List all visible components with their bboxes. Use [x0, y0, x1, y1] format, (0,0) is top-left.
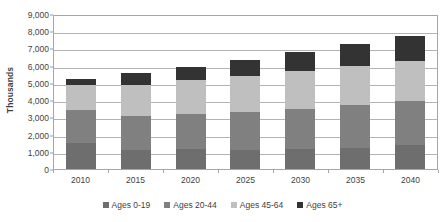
bar-segment-ages-65-2020[interactable]: [176, 67, 206, 80]
bar-segment-ages-20-44-2015[interactable]: [121, 116, 151, 150]
bar-column-2030[interactable]: [285, 16, 315, 169]
bar-segment-ages-20-44-2010[interactable]: [66, 110, 96, 143]
bar-stack: [66, 79, 96, 169]
bar-segment-ages-45-64-2010[interactable]: [66, 85, 96, 110]
bar-segment-ages-45-64-2035[interactable]: [340, 66, 370, 106]
x-axis-tick-label-2025: 2025: [231, 171, 261, 185]
bar-segment-ages-0-19-2015[interactable]: [121, 150, 151, 169]
bar-segment-ages-0-19-2030[interactable]: [285, 149, 315, 169]
x-axis-tick-label-2020: 2020: [176, 171, 206, 185]
y-axis-title: Thousands: [0, 0, 20, 180]
x-axis-tick-label-2030: 2030: [286, 171, 316, 185]
bar-segment-ages-20-44-2035[interactable]: [340, 105, 370, 147]
stacked-bar-chart: Thousands 9,0008,0007,0006,0005,0004,000…: [0, 0, 445, 222]
legend-swatch-ages-20-44: [164, 202, 170, 208]
y-axis-tick-label: 0: [44, 165, 49, 175]
bar-segment-ages-65-2040[interactable]: [395, 36, 425, 61]
bar-segment-ages-65-2025[interactable]: [230, 60, 260, 76]
legend-label: Ages 20-44: [173, 200, 216, 210]
bar-segment-ages-20-44-2030[interactable]: [285, 109, 315, 149]
bar-segment-ages-0-19-2040[interactable]: [395, 145, 425, 169]
x-axis-tick-labels: 2010201520202025203020352040: [53, 171, 438, 189]
bar-segment-ages-0-19-2035[interactable]: [340, 148, 370, 169]
y-axis-tick-label: 5,000: [28, 79, 49, 89]
bar-stack: [285, 52, 315, 169]
bar-segment-ages-0-19-2020[interactable]: [176, 149, 206, 169]
bar-segment-ages-20-44-2025[interactable]: [230, 112, 260, 150]
x-axis-tick-label-2035: 2035: [341, 171, 371, 185]
x-axis-tick-label-2010: 2010: [66, 171, 96, 185]
legend-swatch-ages-45-64: [231, 202, 237, 208]
bar-segment-ages-65-2035[interactable]: [340, 44, 370, 66]
bar-segment-ages-45-64-2025[interactable]: [230, 76, 260, 112]
legend-item-ages-45-64[interactable]: Ages 45-64: [231, 200, 283, 210]
legend-item-ages-65-plus[interactable]: Ages 65+: [297, 200, 342, 210]
legend-label: Ages 45-64: [240, 200, 283, 210]
bar-stack: [395, 36, 425, 169]
y-axis-title-label: Thousands: [5, 67, 15, 113]
bar-stack: [121, 73, 151, 169]
y-axis-tick-label: 4,000: [28, 96, 49, 106]
bar-stack: [230, 60, 260, 170]
bar-segment-ages-45-64-2020[interactable]: [176, 80, 206, 115]
bar-segment-ages-45-64-2040[interactable]: [395, 61, 425, 101]
bar-segment-ages-20-44-2040[interactable]: [395, 101, 425, 145]
bar-segment-ages-65-2030[interactable]: [285, 52, 315, 71]
legend-swatch-ages-65-plus: [297, 202, 303, 208]
bar-stack: [340, 44, 370, 169]
bar-column-2025[interactable]: [230, 16, 260, 169]
bar-column-2010[interactable]: [66, 16, 96, 169]
legend-label: Ages 0-19: [112, 200, 151, 210]
chart-legend: Ages 0-19Ages 20-44Ages 45-64Ages 65+: [0, 198, 445, 212]
y-axis-tick-labels: 9,0008,0007,0006,0005,0004,0003,0002,000…: [20, 15, 53, 170]
legend-label: Ages 65+: [306, 200, 342, 210]
bar-segment-ages-0-19-2025[interactable]: [230, 150, 260, 169]
y-axis-tick-label: 2,000: [28, 131, 49, 141]
x-axis-tick-label-2015: 2015: [121, 171, 151, 185]
bar-segment-ages-45-64-2015[interactable]: [121, 85, 151, 116]
x-axis-tick-label-2040: 2040: [396, 171, 426, 185]
bar-segment-ages-65-2015[interactable]: [121, 73, 151, 85]
bar-stack: [176, 67, 206, 169]
bar-column-2040[interactable]: [395, 16, 425, 169]
plot-area: [53, 15, 438, 170]
y-axis-tick-label: 3,000: [28, 113, 49, 123]
y-axis-tick-label: 9,000: [28, 10, 49, 20]
bar-segment-ages-20-44-2020[interactable]: [176, 114, 206, 148]
bar-segment-ages-45-64-2030[interactable]: [285, 71, 315, 109]
legend-swatch-ages-0-19: [103, 202, 109, 208]
bar-segment-ages-0-19-2010[interactable]: [66, 143, 96, 169]
bars-layer: [54, 16, 437, 169]
y-axis-tick-label: 8,000: [28, 27, 49, 37]
x-axis-tick-mark: [438, 170, 439, 173]
legend-item-ages-20-44[interactable]: Ages 20-44: [164, 200, 216, 210]
y-axis-tick-label: 6,000: [28, 62, 49, 72]
y-axis-tick-label: 7,000: [28, 44, 49, 54]
bar-column-2035[interactable]: [340, 16, 370, 169]
bar-column-2015[interactable]: [121, 16, 151, 169]
legend-item-ages-0-19[interactable]: Ages 0-19: [103, 200, 151, 210]
y-axis-tick-label: 1,000: [28, 148, 49, 158]
bar-column-2020[interactable]: [176, 16, 206, 169]
